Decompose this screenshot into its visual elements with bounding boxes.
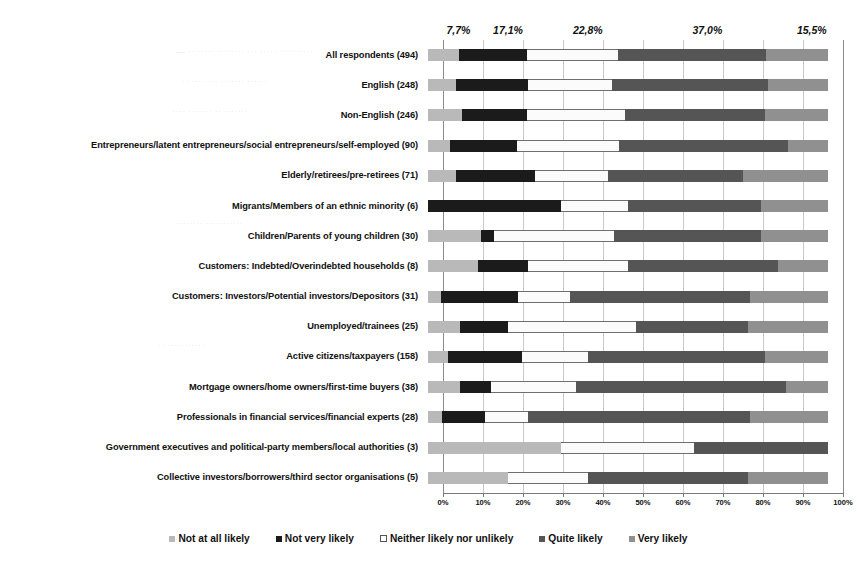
bar-segment[interactable]	[765, 109, 828, 121]
legend-item[interactable]: Very likely	[629, 533, 688, 544]
chart-legend: Not at all likelyNot very likelyNeither …	[0, 533, 857, 544]
stacked-bar[interactable]	[428, 472, 828, 484]
bar-segment[interactable]	[428, 411, 442, 423]
bar-segment[interactable]	[518, 291, 570, 303]
bar-segment[interactable]	[761, 230, 828, 242]
bar-segment[interactable]	[428, 381, 460, 393]
bar-segment[interactable]	[428, 200, 561, 212]
bar-segment[interactable]	[614, 230, 761, 242]
legend-item[interactable]: Not very likely	[276, 533, 354, 544]
bar-segment[interactable]	[460, 321, 508, 333]
bar-segment[interactable]	[517, 140, 619, 152]
bar-segment[interactable]	[528, 79, 612, 91]
bar-segment[interactable]	[522, 351, 588, 363]
bar-segment[interactable]	[778, 260, 828, 272]
bar-segment[interactable]	[428, 79, 456, 91]
x-axis-tick-label: 20%	[515, 498, 530, 507]
bar-segment[interactable]	[743, 170, 827, 182]
stacked-bar[interactable]	[428, 200, 828, 212]
bar-segment[interactable]	[459, 49, 527, 61]
bar-segment[interactable]	[494, 230, 614, 242]
bar-segment[interactable]	[527, 49, 618, 61]
bar-segment[interactable]	[765, 351, 828, 363]
bar-segment[interactable]	[428, 170, 456, 182]
bar-segment[interactable]	[750, 411, 828, 423]
chart-row: Children/Parents of young children (30)	[0, 221, 857, 251]
bar-segment[interactable]	[786, 381, 828, 393]
bar-segment[interactable]	[527, 109, 625, 121]
bar-segment[interactable]	[528, 260, 628, 272]
stacked-bar[interactable]	[428, 260, 828, 272]
legend-item[interactable]: Quite likely	[539, 533, 602, 544]
bar-segment[interactable]	[462, 109, 527, 121]
legend-item[interactable]: Neither likely nor unlikely	[380, 533, 513, 544]
bar-segment[interactable]	[460, 381, 492, 393]
bar-segment[interactable]	[761, 200, 828, 212]
bar-segment[interactable]	[619, 140, 788, 152]
bar-segment[interactable]	[612, 79, 768, 91]
bar-segment[interactable]	[535, 170, 608, 182]
bar-segment[interactable]	[428, 230, 481, 242]
bar-area	[428, 161, 828, 191]
bar-segment[interactable]	[618, 49, 766, 61]
bar-segment[interactable]	[750, 291, 828, 303]
bar-segment[interactable]	[508, 472, 588, 484]
stacked-bar[interactable]	[428, 109, 828, 121]
stacked-bar[interactable]	[428, 291, 828, 303]
bar-segment[interactable]	[481, 230, 494, 242]
bar-segment[interactable]	[485, 411, 528, 423]
bar-area	[428, 221, 828, 251]
bar-segment[interactable]	[748, 472, 828, 484]
bar-segment[interactable]	[428, 442, 561, 454]
bar-segment[interactable]	[442, 411, 485, 423]
bar-segment[interactable]	[766, 49, 828, 61]
bar-segment[interactable]	[428, 321, 460, 333]
bar-segment[interactable]	[768, 79, 828, 91]
bar-segment[interactable]	[428, 260, 478, 272]
bar-segment[interactable]	[628, 200, 761, 212]
bar-segment[interactable]	[636, 321, 748, 333]
bar-segment[interactable]	[428, 351, 448, 363]
bar-segment[interactable]	[448, 351, 522, 363]
bar-segment[interactable]	[441, 291, 519, 303]
bar-segment[interactable]	[748, 321, 828, 333]
bar-segment[interactable]	[478, 260, 528, 272]
bar-segment[interactable]	[561, 442, 694, 454]
bar-segment[interactable]	[625, 109, 765, 121]
bar-segment[interactable]	[491, 381, 575, 393]
bar-segment[interactable]	[428, 472, 508, 484]
legend-swatch-icon	[276, 536, 282, 542]
bar-segment[interactable]	[508, 321, 636, 333]
stacked-bar[interactable]	[428, 49, 828, 61]
legend-item[interactable]: Not at all likely	[169, 533, 249, 544]
bar-segment[interactable]	[570, 291, 751, 303]
stacked-bar[interactable]	[428, 170, 828, 182]
stacked-bar[interactable]	[428, 230, 828, 242]
bar-segment[interactable]	[456, 79, 528, 91]
bar-segment[interactable]	[428, 291, 441, 303]
x-axis-tick-label: 10%	[475, 498, 490, 507]
bar-segment[interactable]	[788, 140, 828, 152]
bar-segment[interactable]	[576, 381, 786, 393]
bar-segment[interactable]	[588, 472, 748, 484]
bar-segment[interactable]	[561, 200, 628, 212]
stacked-bar[interactable]	[428, 140, 828, 152]
stacked-bar[interactable]	[428, 321, 828, 333]
bar-segment[interactable]	[428, 49, 459, 61]
bar-segment[interactable]	[528, 411, 750, 423]
category-label: Collective investors/borrowers/third sec…	[0, 472, 428, 483]
bar-segment[interactable]	[428, 140, 450, 152]
bar-segment[interactable]	[628, 260, 778, 272]
stacked-bar[interactable]	[428, 381, 828, 393]
bar-segment[interactable]	[588, 351, 765, 363]
x-axis-tick-label: 0%	[438, 498, 449, 507]
stacked-bar[interactable]	[428, 442, 828, 454]
stacked-bar[interactable]	[428, 411, 828, 423]
stacked-bar[interactable]	[428, 351, 828, 363]
bar-segment[interactable]	[456, 170, 535, 182]
stacked-bar[interactable]	[428, 79, 828, 91]
bar-segment[interactable]	[450, 140, 517, 152]
bar-segment[interactable]	[608, 170, 743, 182]
bar-segment[interactable]	[428, 109, 462, 121]
bar-segment[interactable]	[694, 442, 827, 454]
